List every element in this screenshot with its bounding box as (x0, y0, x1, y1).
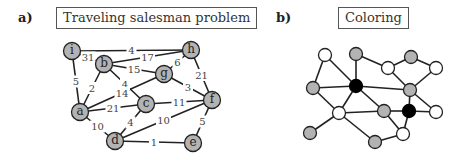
coloring-node-white (333, 107, 346, 120)
coloring-node-white (382, 62, 395, 75)
coloring-node-gray (307, 82, 320, 95)
coloring-node-gray (304, 127, 317, 140)
coloring-node-gray (369, 136, 382, 149)
coloring-node-gray (405, 51, 418, 64)
coloring-node-black (403, 105, 416, 118)
coloring-node-gray (378, 105, 391, 118)
coloring-node-gray (350, 48, 363, 61)
coloring-edge-n7-n8 (356, 86, 410, 90)
coloring-node-white (430, 62, 443, 75)
coloring-edges (310, 54, 436, 142)
coloring-node-gray (404, 84, 417, 97)
coloring-node-black (350, 80, 363, 93)
coloring-node-white (430, 106, 443, 119)
coloring-graph (0, 0, 462, 157)
coloring-node-white (397, 128, 410, 141)
coloring-node-white (319, 49, 332, 62)
